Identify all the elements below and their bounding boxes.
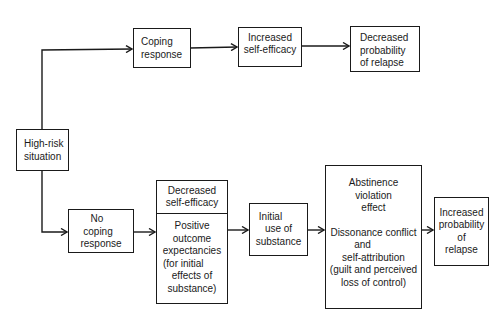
- node-increased-self-efficacy: Increased self-efficacy: [238, 27, 302, 67]
- node-text: of relapse: [360, 57, 419, 70]
- node-decreased-probability-of-relapse: Decreased probability of relapse: [350, 26, 420, 72]
- node-text: use of: [265, 223, 292, 236]
- node-text: (guilt and perceived: [326, 264, 421, 277]
- node-coping-response: Coping response: [133, 28, 191, 68]
- node-text: substance): [168, 283, 217, 296]
- node-text: outcome: [173, 233, 211, 246]
- node-text: Coping: [141, 36, 190, 49]
- node-text: effect: [326, 202, 421, 215]
- node-text: response: [69, 238, 133, 251]
- node-text: situation: [24, 151, 68, 164]
- node-text: violation: [326, 190, 421, 203]
- node-text: probability: [439, 219, 485, 232]
- node-text: of: [457, 232, 465, 245]
- node-text: self-efficacy: [166, 197, 219, 210]
- node-text: response: [141, 49, 190, 62]
- node-text: coping: [69, 226, 133, 239]
- node-text: substance: [256, 236, 302, 249]
- arrow-highrisk-to-coping: [42, 49, 132, 129]
- section-decreased-self-efficacy: Decreased self-efficacy: [157, 181, 227, 214]
- section-positive-outcome-expectancies: Positive outcome expectancies (for initi…: [157, 214, 227, 295]
- arrow-coping-to-increased-self-efficacy: [190, 47, 237, 48]
- node-text: relapse: [445, 244, 478, 257]
- arrow-highrisk-to-no-coping: [42, 170, 67, 232]
- node-text: Decreased: [168, 185, 216, 198]
- node-text: (for initial: [157, 258, 204, 271]
- node-text: Increased: [248, 32, 292, 45]
- node-text: Increased: [440, 207, 484, 220]
- node-text: self-attribution: [326, 252, 421, 265]
- node-text: and: [326, 239, 421, 252]
- node-text: expectancies: [163, 245, 221, 258]
- node-initial-use-of-substance: Initial use of substance: [249, 203, 308, 256]
- node-text: Initial: [259, 211, 298, 224]
- node-text: probability: [360, 45, 419, 58]
- node-text: effects of: [172, 270, 212, 283]
- node-text: No: [69, 213, 133, 226]
- node-text: loss of control): [326, 277, 421, 290]
- node-text: High-risk: [24, 138, 68, 151]
- node-text: Positive: [174, 220, 209, 233]
- node-high-risk-situation: High-risk situation: [16, 129, 69, 171]
- node-text: Dissonance conflict: [326, 227, 421, 240]
- node-decreased-self-efficacy-positive-outcome: Decreased self-efficacy Positive outcome…: [156, 180, 228, 304]
- node-text: self-efficacy: [244, 44, 297, 57]
- node-increased-probability-of-relapse: Increased probability of relapse: [434, 197, 489, 266]
- node-abstinence-violation-effect: Abstinence violation effect Dissonance c…: [325, 165, 422, 309]
- node-no-coping-response: No coping response: [68, 209, 134, 253]
- node-text: Decreased: [360, 32, 419, 45]
- node-text: Abstinence: [326, 177, 421, 190]
